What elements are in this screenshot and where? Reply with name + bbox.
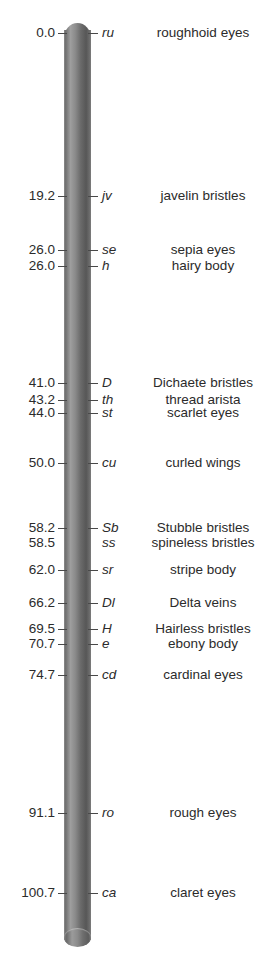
locus-position: 62.0 <box>29 562 55 578</box>
tick-mark-left <box>58 33 67 34</box>
gene-symbol: ro <box>102 805 114 821</box>
tick-mark-left <box>58 266 67 267</box>
locus-position: 100.7 <box>21 885 55 901</box>
phenotype-description: cardinal eyes <box>140 667 266 683</box>
phenotype-description: hairy body <box>140 258 266 274</box>
gene-symbol: jv <box>102 188 112 204</box>
tick-mark-left <box>58 463 67 464</box>
genetic-linkage-map: 0.0ruroughhoid eyes19.2jvjavelin bristle… <box>0 0 266 978</box>
phenotype-description: Dichaete bristles <box>140 375 266 391</box>
phenotype-description: roughhoid eyes <box>140 25 266 41</box>
tick-mark-left <box>58 383 67 384</box>
gene-symbol: ca <box>102 885 116 901</box>
phenotype-description: Stubble bristles <box>140 520 266 536</box>
locus-position: 0.0 <box>36 25 55 41</box>
gene-symbol: Dl <box>102 595 115 611</box>
locus-position: 69.5 <box>29 621 55 637</box>
tick-mark-right <box>88 603 98 604</box>
tick-mark-left <box>58 893 67 894</box>
phenotype-description: spineless bristles <box>140 535 266 551</box>
gene-symbol: cu <box>102 455 116 471</box>
tick-mark-right <box>88 644 98 645</box>
chromosome-body <box>64 30 91 940</box>
gene-symbol: st <box>102 405 113 421</box>
tick-mark-left <box>58 644 67 645</box>
phenotype-description: stripe body <box>140 562 266 578</box>
phenotype-description: sepia eyes <box>140 242 266 258</box>
tick-mark-left <box>58 675 67 676</box>
gene-symbol: h <box>102 258 110 274</box>
locus-position: 74.7 <box>29 667 55 683</box>
tick-mark-left <box>58 570 67 571</box>
tick-mark-left <box>58 528 67 529</box>
gene-symbol: ss <box>102 535 116 551</box>
tick-mark-right <box>88 570 98 571</box>
tick-mark-right <box>88 813 98 814</box>
locus-position: 26.0 <box>29 258 55 274</box>
locus-position: 44.0 <box>29 405 55 421</box>
tick-mark-right <box>88 196 98 197</box>
tick-mark-right <box>88 893 98 894</box>
tick-mark-right <box>88 528 98 529</box>
locus-position: 70.7 <box>29 636 55 652</box>
tick-mark-left <box>58 250 67 251</box>
phenotype-description: javelin bristles <box>140 188 266 204</box>
phenotype-description: curled wings <box>140 455 266 471</box>
gene-symbol: D <box>102 375 112 391</box>
locus-position: 58.2 <box>29 520 55 536</box>
gene-symbol: sr <box>102 562 113 578</box>
tick-mark-right <box>88 463 98 464</box>
phenotype-description: ebony body <box>140 636 266 652</box>
phenotype-description: Hairless bristles <box>140 621 266 637</box>
gene-symbol: H <box>102 621 112 637</box>
phenotype-description: claret eyes <box>140 885 266 901</box>
tick-mark-left <box>58 196 67 197</box>
tick-mark-right <box>88 383 98 384</box>
gene-symbol: e <box>102 636 110 652</box>
tick-mark-right <box>88 400 98 401</box>
tick-mark-left <box>58 813 67 814</box>
tick-mark-right <box>88 33 98 34</box>
locus-position: 58.5 <box>29 535 55 551</box>
tick-mark-right <box>88 266 98 267</box>
gene-symbol: cd <box>102 667 116 683</box>
chromosome-bottom-cap <box>64 928 91 947</box>
tick-mark-left <box>58 603 67 604</box>
tick-mark-left <box>58 629 67 630</box>
locus-position: 91.1 <box>29 805 55 821</box>
tick-mark-right <box>88 629 98 630</box>
tick-mark-right <box>88 675 98 676</box>
phenotype-description: rough eyes <box>140 805 266 821</box>
tick-mark-left <box>58 413 67 414</box>
gene-symbol: Sb <box>102 520 119 536</box>
phenotype-description: Delta veins <box>140 595 266 611</box>
locus-position: 50.0 <box>29 455 55 471</box>
gene-symbol: ru <box>102 25 114 41</box>
locus-position: 26.0 <box>29 242 55 258</box>
tick-mark-left <box>58 400 67 401</box>
chromosome-bar <box>64 23 91 947</box>
locus-position: 66.2 <box>29 595 55 611</box>
tick-mark-right <box>88 413 98 414</box>
phenotype-description: scarlet eyes <box>140 405 266 421</box>
gene-symbol: se <box>102 242 116 258</box>
locus-position: 19.2 <box>29 188 55 204</box>
locus-position: 41.0 <box>29 375 55 391</box>
tick-mark-right <box>88 250 98 251</box>
